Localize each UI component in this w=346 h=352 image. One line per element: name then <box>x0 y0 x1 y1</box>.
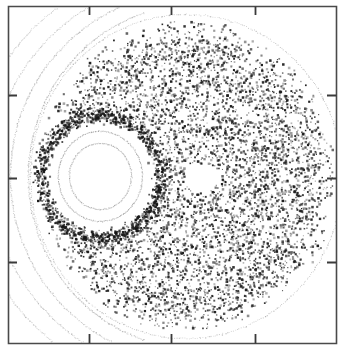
poincare-scatter-plot <box>0 0 346 352</box>
poincare-section-figure <box>0 0 346 352</box>
